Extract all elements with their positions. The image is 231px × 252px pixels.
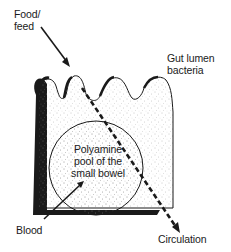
blood-label: Blood <box>16 224 42 236</box>
circulation-label: Circulation <box>158 233 207 245</box>
diagram-graphic <box>0 0 231 252</box>
food-label-line2: feed <box>14 20 40 32</box>
food-label-line1: Food/ <box>14 8 40 20</box>
polyamine-pool-label: Polyamine pool of the small bowel <box>58 143 138 179</box>
bacteria-label: Gut lumen bacteria <box>167 52 215 76</box>
bacteria-label-line1: Gut lumen <box>167 52 215 64</box>
pool-label-line2: pool of the <box>58 155 138 167</box>
food-arrow-line <box>41 27 67 62</box>
food-arrow-head <box>62 57 70 67</box>
polyamine-pool-diagram: Food/ feed Gut lumen bacteria Polyamine … <box>0 0 231 252</box>
pool-label-line1: Polyamine <box>58 143 138 155</box>
food-label: Food/ feed <box>14 8 40 32</box>
pool-label-line3: small bowel <box>58 167 138 179</box>
bacteria-label-line2: bacteria <box>167 64 215 76</box>
